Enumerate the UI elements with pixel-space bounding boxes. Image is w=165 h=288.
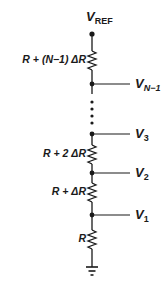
resistor-4-label: R	[78, 232, 86, 244]
resistor-1-label: R + (N−1) ΔR	[22, 53, 86, 65]
tap-v3-main: V	[135, 126, 144, 141]
ladder-schematic	[0, 0, 165, 288]
tap-v3-sub: 3	[144, 133, 149, 143]
resistor-2-zigzag	[88, 145, 96, 164]
tap-v2-label: V2	[135, 165, 149, 182]
tap-vn-1-sub: N−1	[144, 83, 161, 93]
ground-icon	[86, 267, 98, 275]
resistor-3-label: R + ΔR	[52, 185, 86, 197]
resistor-2-label: R + 2 ΔR	[43, 147, 86, 159]
resistor-1-zigzag	[88, 51, 96, 70]
ellipsis-dots	[90, 100, 93, 124]
tap-v2-main: V	[135, 165, 144, 180]
vref-label-sub: REF	[95, 16, 113, 26]
tap-v1-main: V	[135, 207, 144, 222]
tap-vn-1-label: VN−1	[135, 76, 160, 93]
vref-label-main: V	[86, 9, 95, 24]
vref-label: VREF	[86, 9, 113, 26]
tap-v1-label: V1	[135, 207, 149, 224]
tap-v2-sub: 2	[144, 172, 149, 182]
tap-v3-label: V3	[135, 126, 149, 143]
tap-vn-1-main: V	[135, 76, 144, 91]
resistor-4-zigzag	[88, 230, 96, 249]
resistor-3-zigzag	[88, 183, 96, 202]
tap-v1-sub: 1	[144, 214, 149, 224]
